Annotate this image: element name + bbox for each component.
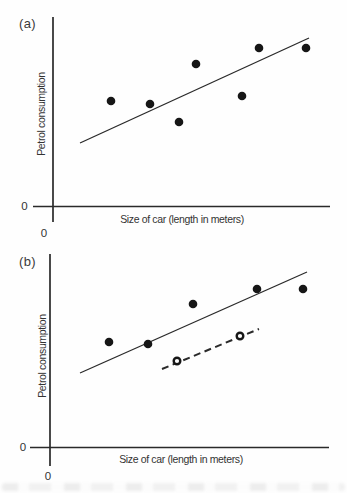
panel-a-data-point: [238, 92, 247, 101]
panel-a-x-axis-label: Size of car (length in meters): [120, 214, 244, 225]
panel-b-x-axis-zero-label: 0: [45, 471, 51, 483]
panel-a-data-point: [107, 97, 116, 106]
panel-a-data-point: [175, 118, 184, 127]
panel-b-y-axis-label: Petrol consumption: [37, 314, 48, 398]
two-panel-scatter-figure: (a) Petrol consumption Size of car (leng…: [0, 0, 347, 493]
panel-b-fit-line: [80, 272, 307, 373]
panel-b-data-point: [144, 340, 153, 349]
panel-a-data-point: [146, 100, 155, 109]
panel-b-y-axis-zero-label: 0: [20, 442, 26, 454]
panel-b-x-axis-label: Size of car (length in meters): [119, 454, 243, 465]
panel-a-y-axis-zero-label: 0: [21, 201, 27, 213]
panel-a-x-axis-zero-label: 0: [41, 228, 47, 240]
panel-b-open-data-point: [237, 333, 244, 340]
scan-artifact-band: [2, 483, 345, 491]
panel-b-data-point: [299, 285, 308, 294]
panel-a-data-point: [255, 44, 264, 53]
panel-a-tag: (a): [19, 17, 36, 30]
panel-a-y-axis-label: Petrol consumption: [36, 72, 47, 156]
panel-b-tag: (b): [19, 255, 36, 268]
panel-b-data-point: [189, 300, 198, 309]
panel-b-open-data-point: [174, 358, 181, 365]
panel-b-data-point: [253, 285, 262, 294]
panel-b-data-point: [105, 338, 114, 347]
panel-a-data-point: [302, 44, 311, 53]
panel-a-data-point: [192, 60, 201, 69]
panel-a-fit-line: [80, 38, 309, 143]
scatter-charts-canvas: [0, 0, 347, 493]
